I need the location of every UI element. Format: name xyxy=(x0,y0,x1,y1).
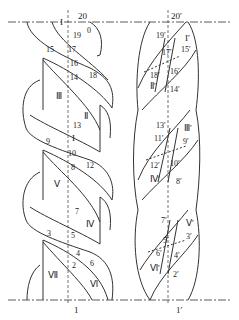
left-point-label: 19 xyxy=(73,32,81,40)
left-segment-label: Ⅲ xyxy=(56,92,62,101)
left-point-label: 17 xyxy=(68,46,76,54)
left-point-label: 0 xyxy=(87,27,91,35)
twisted-strand-diagram: 20 1 20′ 1′ 190171516181413910128735462I… xyxy=(0,0,239,320)
right-point-label: 6′ xyxy=(156,250,162,258)
right-point-label: 7′ xyxy=(161,217,167,225)
right-point-label: 8′ xyxy=(176,178,182,186)
right-point-label: 3′ xyxy=(186,233,192,241)
right-point-label: 14′ xyxy=(170,86,180,94)
right-point-label: 13′ xyxy=(156,122,166,130)
left-point-label: 5 xyxy=(71,232,75,240)
right-point-label: 12′ xyxy=(150,162,160,170)
right-point-label: 18′ xyxy=(150,72,160,80)
left-point-label: 6 xyxy=(90,260,94,268)
left-point-label: 12 xyxy=(86,162,94,170)
right-segment-label: Ⅱ′ xyxy=(150,82,156,91)
left-bottom-label: 1 xyxy=(74,306,79,315)
right-segment-label: Ⅴ′ xyxy=(186,219,194,228)
left-segment-label: Ⅱ xyxy=(84,112,88,121)
left-segment-label: Ⅳ xyxy=(86,220,94,229)
right-segment-label: Ⅳ′ xyxy=(150,175,160,184)
left-point-label: 16 xyxy=(70,60,78,68)
right-point-label: 2′ xyxy=(173,271,179,279)
left-point-label: 18 xyxy=(89,72,97,80)
left-point-label: 8 xyxy=(71,164,75,172)
left-point-label: 14 xyxy=(70,74,78,82)
left-segment-label: Ⅵ xyxy=(90,280,98,289)
left-segment-label: Ⅴ xyxy=(54,180,60,189)
left-segment-label: Ⅶ xyxy=(48,271,58,280)
right-point-label: 4′ xyxy=(174,252,180,260)
left-point-label: 13 xyxy=(73,122,81,130)
strand-drawing xyxy=(0,0,239,320)
left-top-label: 20 xyxy=(78,12,87,21)
right-point-label: 19′ xyxy=(156,32,166,40)
right-segment-label: I′ xyxy=(185,34,190,43)
left-point-label: 7 xyxy=(75,208,79,216)
left-point-label: 4 xyxy=(76,250,80,258)
right-point-label: 16′ xyxy=(170,68,180,76)
right-point-label: 17′ xyxy=(162,49,172,57)
right-point-label: 11′ xyxy=(154,135,163,143)
right-point-label: 9′ xyxy=(183,138,189,146)
left-point-label: 2 xyxy=(72,262,76,270)
right-point-label: 15′ xyxy=(181,46,191,54)
right-segment-label: Ⅲ′ xyxy=(184,124,192,133)
right-bottom-label: 1′ xyxy=(176,306,182,315)
right-top-label: 20′ xyxy=(171,12,182,21)
left-segment-label: I xyxy=(60,18,63,27)
right-point-label: 5′ xyxy=(163,237,169,245)
right-strand-outline xyxy=(134,22,200,300)
left-point-label: 15 xyxy=(46,46,54,54)
right-point-label: 10′ xyxy=(170,160,180,168)
left-point-label: 9 xyxy=(46,138,50,146)
left-point-label: 3 xyxy=(47,230,51,238)
left-point-label: 10 xyxy=(68,150,76,158)
right-segment-label: Ⅵ′ xyxy=(150,264,160,273)
left-segment-label: I xyxy=(72,134,75,143)
